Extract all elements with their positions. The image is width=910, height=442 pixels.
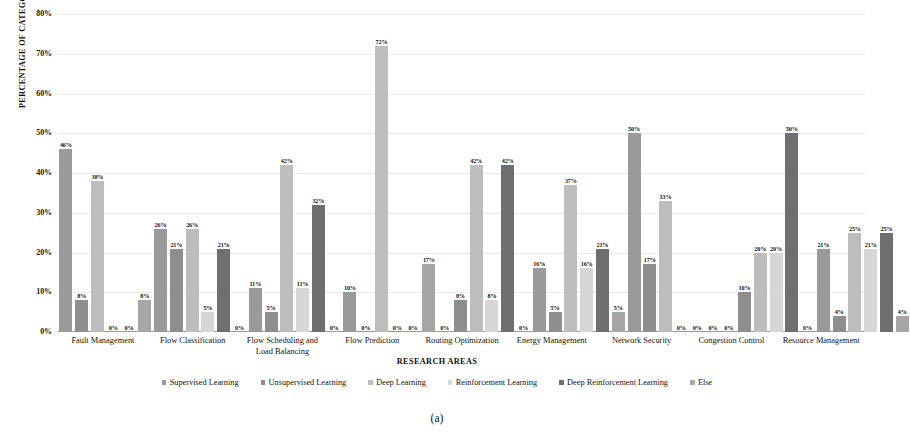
bar[interactable] [422,264,435,332]
bar[interactable] [59,149,72,332]
bar[interactable] [296,288,309,332]
bar[interactable] [896,316,909,332]
legend-label: Else [698,378,712,387]
legend-item[interactable]: Deep Learning [368,378,426,387]
bar[interactable] [470,165,483,332]
bar-value-label: 21% [218,241,230,248]
legend-label: Deep Learning [376,378,426,387]
bar-value-label: 8% [487,292,496,299]
y-tick-label: 70% [36,50,52,58]
bar[interactable] [754,253,767,333]
bar-value-label: 20% [770,245,782,252]
legend-item[interactable]: Else [690,378,712,387]
bar[interactable] [848,233,861,332]
x-axis-tick-label: Congestion Control [686,336,776,357]
bar-slot: 5% [612,14,625,332]
bar[interactable] [596,249,609,332]
bar-group: 50%17%33%0%0%0% [626,14,721,332]
bar[interactable] [833,316,846,332]
bar-slot: 17% [422,14,435,332]
bar[interactable] [217,249,230,332]
bar[interactable] [628,133,641,332]
bar-value-label: 8% [77,292,86,299]
bar-slot: 16% [580,14,593,332]
bar[interactable] [170,249,183,332]
bar-value-label: 32% [312,197,324,204]
bar-slot: 0% [675,14,688,332]
x-axis-tick-label: Network Security [597,336,687,357]
bar-group: 0%8%42%8%42%0% [437,14,532,332]
bar-value-label: 8% [140,292,149,299]
bar-value-label: 10% [739,284,751,291]
bar-slot: 8% [138,14,151,332]
legend-item[interactable]: Supervised Learning [162,378,239,387]
bar[interactable] [75,300,88,332]
bar-value-label: 26% [155,221,167,228]
legend-item[interactable]: Deep Reinforcement Learning [559,378,668,387]
bar[interactable] [280,165,293,332]
bar-slot: 5% [265,14,278,332]
bar-value-label: 0% [803,324,812,331]
x-axis-tick-label-line: Load Balancing [240,347,326,358]
bar-value-label: 17% [423,256,435,263]
bar-value-label: 42% [470,157,482,164]
bar[interactable] [375,46,388,332]
y-tick-label: 40% [36,169,52,177]
bar-slot: 21% [864,14,877,332]
bar[interactable] [612,312,625,332]
bar[interactable] [770,253,783,333]
bar-slot: 26% [154,14,167,332]
bar[interactable] [659,201,672,332]
bar[interactable] [312,205,325,332]
bar[interactable] [186,229,199,332]
x-axis-tick-label: Energy Management [507,336,597,357]
bar-slot: 33% [659,14,672,332]
bar-groups: 46%8%38%0%0%8%26%21%26%5%21%0%11%5%42%11… [58,14,866,332]
bar-slot: 0% [722,14,735,332]
legend-label: Unsupervised Learning [269,378,347,387]
bar-slot: 21% [596,14,609,332]
bar-value-label: 50% [786,125,798,132]
bar-slot: 0% [801,14,814,332]
bar[interactable] [864,249,877,332]
bar[interactable] [91,181,104,332]
bar-value-label: 0% [724,324,733,331]
bar-slot: 25% [848,14,861,332]
bar[interactable] [501,165,514,332]
bar-slot: 0% [328,14,341,332]
bar[interactable] [533,268,546,332]
bar-slot: 0% [691,14,704,332]
bar-slot: 42% [501,14,514,332]
bar[interactable] [785,133,798,332]
figure-caption: (a) [0,412,874,424]
bar[interactable] [201,312,214,332]
bar[interactable] [249,288,262,332]
bar[interactable] [265,312,278,332]
legend-item[interactable]: Reinforcement Learning [448,378,537,387]
bar-slot: 5% [549,14,562,332]
bar-slot: 8% [485,14,498,332]
bar[interactable] [454,300,467,332]
x-axis-tick-label-line: Flow Classification [150,336,236,347]
bar[interactable] [738,292,751,332]
bar[interactable] [154,229,167,332]
bar-slot: 0% [517,14,530,332]
legend-item[interactable]: Unsupervised Learning [261,378,347,387]
bar[interactable] [138,300,151,332]
bar[interactable] [880,233,893,332]
x-axis-tick-label-line: Network Security [599,336,685,347]
bar[interactable] [643,264,656,332]
bar[interactable] [817,249,830,332]
bar-group: 46%8%38%0%0%8% [58,14,153,332]
bar-value-label: 0% [125,324,134,331]
bar[interactable] [580,268,593,332]
bar-value-label: 21% [865,241,877,248]
bar[interactable] [549,312,562,332]
bar[interactable] [564,185,577,332]
bar[interactable] [343,292,356,332]
bar-value-label: 25% [849,225,861,232]
x-axis-tick-label-line: Routing Optimization [419,336,505,347]
bar-slot: 21% [217,14,230,332]
bar[interactable] [485,300,498,332]
bar-value-label: 21% [170,241,182,248]
